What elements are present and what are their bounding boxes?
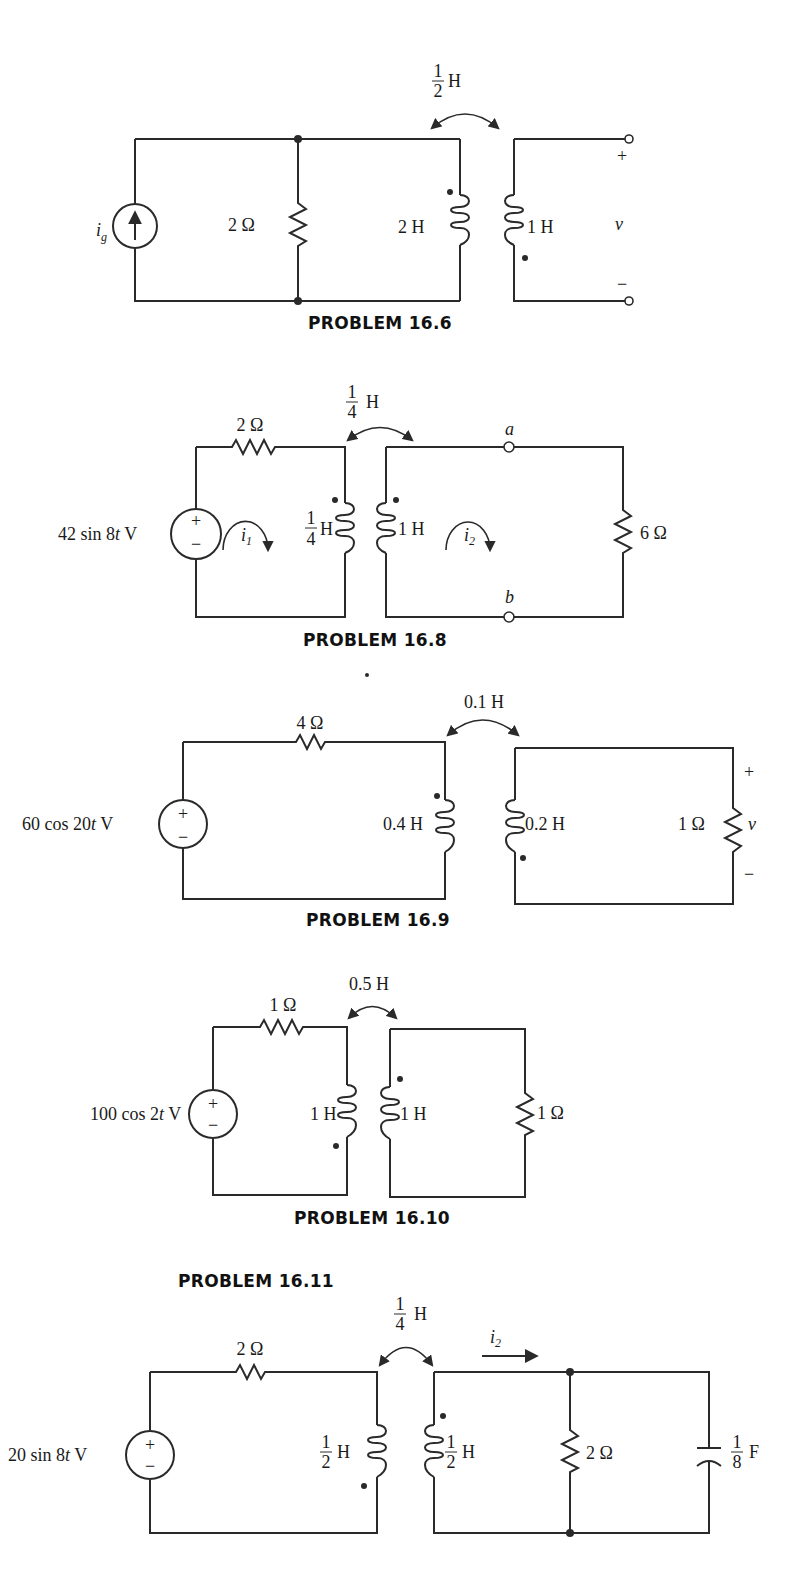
- circuit-problem-16-11: PROBLEM 16.11 + − 20 sin 8t V 2 Ω 1 2 H …: [8, 1271, 759, 1537]
- resistor-label: 2 Ω: [237, 1339, 264, 1359]
- polarity-dot: [522, 255, 528, 261]
- polarity-dot: [434, 793, 440, 799]
- caption: PROBLEM 16.6: [308, 313, 452, 333]
- inductor-L1-label: 2 H: [398, 217, 425, 237]
- mutual-coupling-arrow-icon: [348, 428, 412, 441]
- polarity-dot: [520, 855, 526, 861]
- polarity-dot: [447, 189, 453, 195]
- circuit-problem-16-6: ig 2 Ω 2 H 1 H + − v 1 2 H PROBLEM 16.6: [96, 61, 633, 333]
- output-voltage-label: v: [748, 814, 756, 834]
- inductor-coil: [506, 800, 524, 852]
- mutual-num: 1: [434, 61, 443, 81]
- load-label: 6 Ω: [640, 523, 667, 543]
- circuit-problem-16-8: + − 42 sin 8t V 2 Ω i1 1 4 H 1 H i2 a b …: [58, 382, 667, 650]
- terminal: [625, 135, 633, 143]
- inductor-coil: [336, 503, 354, 553]
- cap-den: 8: [733, 1452, 742, 1472]
- plus-sign: +: [617, 146, 627, 166]
- source-label: 42 sin 8t V: [58, 524, 137, 544]
- minus-sign: −: [744, 864, 754, 884]
- L2-num: 1: [447, 1432, 456, 1452]
- circuit-problem-16-10: + − 100 cos 2t V 1 Ω 1 H 1 H 1 Ω 0.5 H P…: [90, 974, 564, 1228]
- mutual-unit: H: [366, 392, 379, 412]
- mesh-i1-label: i1: [241, 525, 252, 548]
- polarity-dot: [393, 497, 399, 503]
- cap-unit: F: [749, 1442, 759, 1462]
- node-dot: [294, 297, 302, 305]
- caption: PROBLEM 16.8: [303, 630, 447, 650]
- L1-unit: H: [337, 1442, 350, 1462]
- caption: PROBLEM 16.10: [294, 1208, 450, 1228]
- inductor-coil: [436, 800, 454, 852]
- inductor-coil: [377, 503, 395, 553]
- polarity-dot: [361, 1483, 367, 1489]
- source-label: 100 cos 2t V: [90, 1104, 181, 1124]
- mutual-num: 1: [348, 382, 357, 402]
- mutual-den: 4: [348, 402, 357, 422]
- L2-den: 2: [447, 1452, 456, 1472]
- caption: PROBLEM 16.11: [178, 1271, 334, 1291]
- source-label: 20 sin 8t V: [8, 1445, 87, 1465]
- polarity-dot: [332, 497, 338, 503]
- mutual-label: 0.1 H: [464, 692, 504, 712]
- load-label: 1 Ω: [537, 1103, 564, 1123]
- node-dot: [294, 135, 302, 143]
- mutual-coupling-arrow-icon: [448, 720, 518, 735]
- plus-sign: +: [744, 762, 754, 782]
- plus-sign: +: [208, 1094, 218, 1114]
- cap-num: 1: [733, 1432, 742, 1452]
- terminal: [625, 297, 633, 305]
- current-i2-label: i2: [490, 1327, 501, 1350]
- resistor-label: 1 Ω: [270, 995, 297, 1015]
- mutual-num: 1: [396, 1294, 405, 1314]
- inductor-coil: [425, 1425, 443, 1477]
- inductor-L2-label: 1 H: [527, 217, 554, 237]
- mutual-coupling-arrow-icon: [432, 114, 498, 128]
- L1-num: 1: [307, 508, 316, 528]
- plus-sign: +: [178, 804, 188, 824]
- polarity-dot: [440, 1413, 446, 1419]
- mutual-coupling-arrow-icon: [380, 1348, 432, 1366]
- resistor-label: 2 Ω: [228, 215, 255, 235]
- shunt-resistor: [562, 1372, 578, 1533]
- L1-label: 0.4 H: [383, 814, 423, 834]
- source-label: ig: [96, 220, 107, 244]
- terminal-b-label: b: [505, 587, 514, 607]
- minus-sign: −: [178, 827, 188, 847]
- resistor-label: 4 Ω: [297, 713, 324, 733]
- L2-label: 1 H: [400, 1104, 427, 1124]
- mutual-unit: H: [448, 71, 461, 91]
- node-dot: [566, 1368, 574, 1376]
- minus-sign: −: [191, 534, 201, 554]
- terminal-a: [504, 442, 514, 452]
- L1-unit: H: [320, 519, 333, 539]
- circuit-problem-16-9: + − 60 cos 20t V 4 Ω 0.4 H 0.2 H 1 Ω + v…: [22, 692, 756, 930]
- L1-label: 1 H: [310, 1104, 337, 1124]
- minus-sign: −: [145, 1456, 155, 1476]
- L2-label: 0.2 H: [525, 814, 565, 834]
- resistor-label: 2 Ω: [237, 415, 264, 435]
- mutual-den: 4: [396, 1314, 405, 1334]
- output-voltage-label: v: [615, 214, 623, 234]
- minus-sign: −: [208, 1115, 218, 1135]
- mesh-i2-label: i2: [464, 525, 475, 548]
- L1-den: 4: [307, 529, 316, 549]
- resistor-2ohm: [290, 139, 306, 301]
- terminal-a-label: a: [505, 419, 514, 439]
- inductor-coil: [338, 1085, 356, 1137]
- shunt-resistor-label: 2 Ω: [586, 1443, 613, 1463]
- stray-mark: [365, 673, 369, 677]
- polarity-dot: [397, 1076, 403, 1082]
- node-dot: [566, 1529, 574, 1537]
- inductor-coil: [451, 195, 469, 245]
- mutual-label: 0.5 H: [349, 974, 389, 994]
- minus-sign: −: [617, 274, 627, 294]
- caption: PROBLEM 16.9: [306, 910, 450, 930]
- plus-sign: +: [191, 511, 201, 531]
- plus-sign: +: [145, 1435, 155, 1455]
- L2-label: 1 H: [398, 519, 425, 539]
- L2-unit: H: [462, 1442, 475, 1462]
- L1-num: 1: [322, 1432, 331, 1452]
- source-label: 60 cos 20t V: [22, 814, 113, 834]
- L1-den: 2: [322, 1452, 331, 1472]
